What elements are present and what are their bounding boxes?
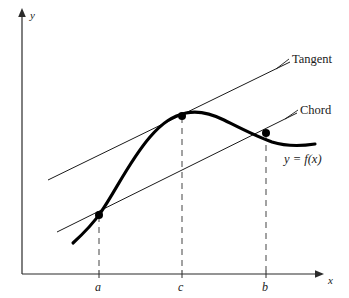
point-c-marker: [178, 112, 186, 120]
x-axis-label: x: [328, 275, 333, 286]
y-axis-arrow-icon: [18, 8, 26, 17]
tick-label-a: a: [95, 281, 101, 293]
figure-canvas: [0, 0, 349, 298]
function-label: y = f(x): [284, 153, 322, 166]
function-curve: [73, 112, 315, 243]
tick-label-b: b: [262, 281, 268, 293]
x-axis-arrow-icon: [315, 270, 324, 278]
point-a-marker: [95, 211, 103, 219]
chord-label: Chord: [300, 104, 331, 117]
y-axis-label: y: [30, 10, 35, 21]
tangent-leader-line: [276, 59, 289, 69]
point-b-marker: [262, 129, 270, 137]
chord-leader-line: [285, 110, 298, 119]
chord-line: [57, 113, 297, 232]
tangent-label: Tangent: [292, 53, 332, 66]
mvt-figure: y x a c b Tangent Chord y = f(x): [0, 0, 349, 298]
tick-label-c: c: [178, 281, 183, 293]
